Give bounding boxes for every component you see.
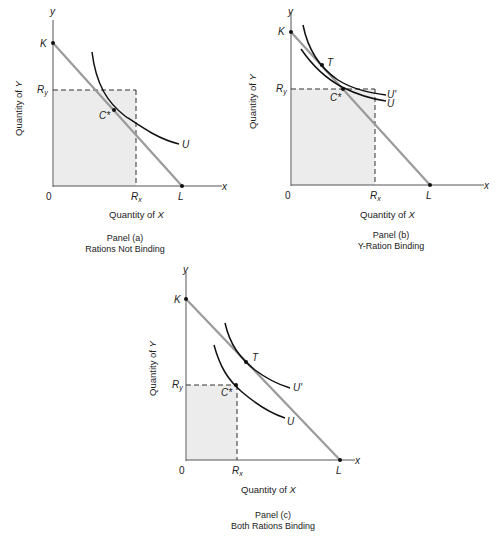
label-ry: Ry (276, 83, 287, 96)
point-c-star (341, 87, 345, 91)
point-t (244, 360, 248, 364)
y-axis-label: y (287, 6, 294, 17)
label-t: T (252, 352, 259, 363)
y-axis-title-b: Quantity of Y (247, 62, 258, 142)
label-origin: 0 (179, 465, 185, 476)
label-u-prime: U' (293, 382, 303, 393)
label-k: K (174, 294, 182, 305)
label-t: T (327, 57, 334, 68)
label-ry: Ry (172, 379, 183, 392)
point-k (184, 297, 188, 301)
label-origin: 0 (46, 191, 52, 202)
label-rx: Rx (370, 190, 381, 202)
label-c-star: C* (221, 387, 233, 398)
label-l: L (426, 190, 432, 201)
feasible-region-shade (292, 89, 375, 185)
label-u: U (182, 139, 190, 150)
caption-panel-c: Panel (c)Both Rations Binding (213, 510, 333, 532)
caption-panel-a: Panel (a)Rations Not Binding (70, 233, 180, 255)
point-k (289, 30, 293, 34)
label-c-star: C* (330, 92, 342, 103)
point-l (338, 458, 342, 462)
label-k: K (278, 26, 286, 37)
point-k (51, 41, 55, 45)
point-l (428, 183, 432, 187)
feasible-region-shade (54, 90, 136, 186)
label-u: U (387, 98, 395, 109)
x-axis-label: x (483, 180, 490, 191)
x-axis-title-a: Quantity of X (109, 209, 164, 220)
x-axis-label: x (221, 181, 228, 192)
y-axis-label: y (182, 264, 189, 275)
point-t (320, 63, 324, 67)
label-u: U (287, 416, 295, 427)
panel-b: y x K Ry 0 Rx L T C* U' U (276, 6, 490, 202)
point-c-star (234, 383, 238, 387)
label-rx: Rx (232, 465, 243, 477)
x-axis-label: x (354, 455, 361, 466)
label-rx: Rx (131, 191, 142, 203)
label-k: K (40, 38, 48, 49)
y-axis-title-a: Quantity of Y (13, 69, 24, 149)
x-axis-title-c: Quantity of X (241, 484, 296, 495)
x-axis-title-b: Quantity of X (360, 209, 415, 220)
panel-c: y x K Ry 0 Rx L T C* U' U (172, 264, 361, 477)
label-l: L (178, 191, 184, 202)
caption-panel-b: Panel (b)Y-Ration Binding (336, 230, 446, 252)
label-origin: 0 (285, 190, 291, 201)
point-c-star (112, 108, 116, 112)
point-l (180, 184, 184, 188)
label-ry: Ry (37, 84, 48, 97)
y-axis-title-c: Quantity of Y (147, 329, 158, 409)
label-l: L (336, 465, 342, 476)
label-c-star: C* (99, 110, 111, 121)
panel-a: y x K Ry 0 Rx L C* U (37, 6, 228, 203)
y-axis-label: y (49, 6, 56, 17)
